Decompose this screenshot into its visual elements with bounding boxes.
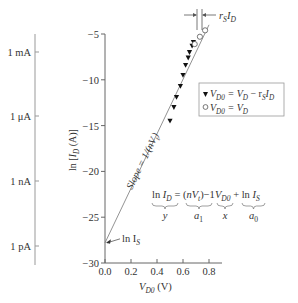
y-axis-label: ln [ID (A)] [67,129,81,171]
x-tick-label: 0.6 [176,266,189,277]
x-tick-label: 0.2 [124,266,137,277]
arrow-icon [202,13,206,17]
y-tick-label: −5 [88,29,99,40]
data-point-triangle [183,63,188,68]
eq-x-label: x [222,210,228,221]
rs-id-label: rSID [219,10,236,24]
equation: ln ID = (nVt)−1VD0 + ln IS [152,189,260,203]
brace-a0 [242,203,265,209]
eq-y-label: y [162,210,168,221]
ln-is-label: ln IS [122,233,140,247]
brace-x [217,203,233,209]
data-point-circle [203,28,208,33]
eq-a1-label: a1 [194,210,203,224]
legend-circle-icon [203,105,208,110]
y-tick-label: −20 [83,166,99,177]
data-point-triangle [187,50,192,55]
data-point-circle [192,41,197,46]
chart: 1 mA1 μA1 nA1 pA−5−10−15−20−25−30ln [ID … [0,0,298,303]
brace-y [152,203,178,209]
y-tick-label: −10 [83,75,99,86]
eq-a0-label: a0 [249,210,258,224]
data-point-triangle [167,119,172,124]
y-tick-label: −15 [83,121,99,132]
current-tick-label: 1 pA [10,241,31,252]
x-tick-label: 0.0 [98,266,111,277]
slope-label: Slope = 1/(nVt) [124,130,164,192]
current-tick-label: 1 nA [10,176,31,187]
data-point-triangle [171,105,176,110]
x-axis-label: VD0 (V) [139,281,172,295]
data-point-triangle [186,56,191,61]
y-tick-label: −30 [83,258,99,269]
current-tick-label: 1 mA [7,47,31,58]
arrow-icon [193,13,197,17]
brace-a1 [186,203,212,209]
current-tick-label: 1 μA [10,111,32,122]
x-tick-label: 0.8 [202,266,215,277]
x-tick-label: 0.4 [150,266,164,277]
y-tick-label: −25 [83,212,99,223]
data-point-circle [197,34,202,39]
